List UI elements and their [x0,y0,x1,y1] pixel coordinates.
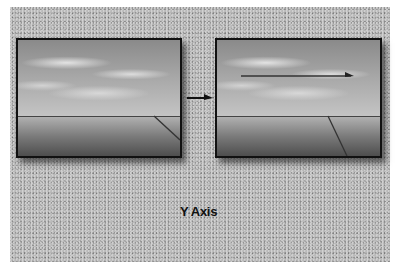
frame-after [215,38,382,158]
arrow-right-icon [186,93,214,103]
axis-caption: Y Axis [0,204,397,219]
diagonal-line [18,40,180,156]
rotation-arrow-icon [217,40,380,156]
frame-before [16,38,182,158]
